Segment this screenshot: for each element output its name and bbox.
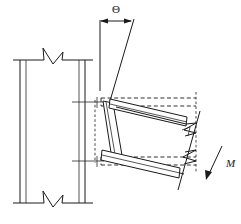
moment-label: M <box>225 157 236 169</box>
beam-top-flange-inner-line <box>110 104 187 122</box>
figure-container: Θ <box>0 0 241 224</box>
theta-arrowhead-right <box>124 18 132 23</box>
rotation-dimension-group: Θ <box>100 3 134 101</box>
flange-level-tick-marks <box>72 97 104 167</box>
column-assembly <box>13 48 93 207</box>
column-top-break-symbol <box>43 48 63 64</box>
moment-arrowhead <box>205 170 212 180</box>
inclined-reference-line <box>110 19 134 101</box>
moment-arrow-group: M <box>205 146 236 180</box>
connection-rotation-diagram: Θ <box>0 0 241 224</box>
theta-arrowhead-left <box>100 18 108 23</box>
beam-bottom-flange-inner-line <box>102 155 180 173</box>
rotation-angle-label: Θ <box>112 3 120 15</box>
column-bottom-break-symbol <box>43 191 63 207</box>
